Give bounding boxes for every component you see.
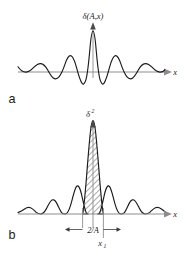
- panel-a-function-label-text: δ(A,x): [83, 11, 104, 21]
- panel-b-marker-subscript: 1: [104, 243, 107, 249]
- panel-a-letter-label: a: [8, 92, 15, 106]
- panel-b-marker-symbol: x: [97, 239, 102, 248]
- panel-b-width-label: 2/A: [87, 226, 100, 235]
- panel-a-x-axis-label: x: [172, 68, 177, 77]
- panel-a-function-label: δ(A,x): [83, 11, 104, 21]
- figure-container: δ(A,x) x a: [0, 0, 186, 259]
- panel-b-function-exponent: 2: [92, 108, 95, 114]
- two-panel-sinc-figure: δ(A,x) x a: [0, 0, 186, 259]
- panel-b-x-axis-label: x: [172, 210, 177, 219]
- panel-b-letter-label: b: [8, 228, 15, 242]
